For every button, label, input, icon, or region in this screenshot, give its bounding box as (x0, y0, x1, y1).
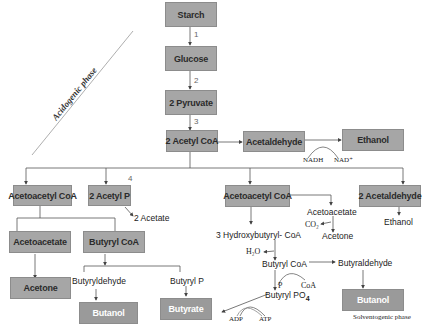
step-1-label: 1 (194, 30, 198, 39)
nad-label: NAD⁺ (334, 156, 353, 164)
acetoacetate-left-node: Acetoacetate (9, 231, 71, 253)
butyrate-node: Butyrate (160, 298, 212, 320)
butyryl-po4-text: Butyryl PO (265, 290, 306, 300)
acetone-right-label: Acetone (322, 231, 353, 241)
acetaldehyde-node: Acetaldehyde (243, 131, 305, 152)
solventogenic-phase-label: Solventogenic phase (353, 313, 411, 321)
acetoacetate-right-label: Acetoacetate (307, 207, 357, 217)
butyraldehyde-label: Butyraldehyde (338, 258, 392, 268)
ethanol-right-label: Ethanol (384, 217, 413, 227)
step-4-label: 4 (128, 174, 132, 183)
starch-node: Starch (165, 2, 217, 27)
butyryl-p-label: Butyryl P (170, 276, 204, 286)
atp-label: ATP (259, 315, 271, 323)
adp-label: ADP (229, 315, 243, 323)
acetoacetyl-coa-right-node: Acetoacetyl CoA (225, 185, 290, 207)
acetoacetyl-coa-left-node: Acetoacetyl CoA (13, 185, 72, 206)
po4-subscript: 4 (306, 295, 310, 302)
ethanol-node: Ethanol (342, 129, 404, 151)
acetyl-coa-node: 2 Acetyl CoA (166, 130, 218, 152)
hydroxybutyryl-coa-label: 3 Hydroxybutyryl- CoA (216, 230, 301, 240)
nadh-label: NADH (303, 156, 323, 164)
glucose-node: Glucose (165, 46, 217, 71)
acetate-label: 2 Acetate (134, 213, 169, 223)
butyryl-coa-left-node: Butyryl CoA (83, 231, 145, 253)
butyryl-coa-right-label: Butyryl CoA (262, 259, 307, 269)
step-3-label: 3 (194, 117, 198, 126)
coa-label: CoA (301, 281, 316, 290)
co2-label: CO₂ (305, 220, 319, 229)
acetone-left-node: Acetone (10, 277, 71, 299)
acetyl-p-node: 2 Acetyl P (88, 185, 131, 206)
butanol-right-node: Butanol (342, 289, 404, 311)
pyruvate-node: 2 Pyruvate (165, 90, 217, 115)
h2o-label: H₂O (246, 247, 260, 256)
phosphate-p-label: P (278, 281, 282, 290)
butanol-left-node: Butanol (79, 302, 138, 324)
acetaldehyde-2-node: 2 Acetaldehyde (359, 185, 421, 207)
step-2-label: 2 (194, 76, 198, 85)
butyryl-po4-label: Butyryl PO4 (265, 290, 310, 302)
butyryldehyde-label: Butyryldehyde (72, 276, 126, 286)
